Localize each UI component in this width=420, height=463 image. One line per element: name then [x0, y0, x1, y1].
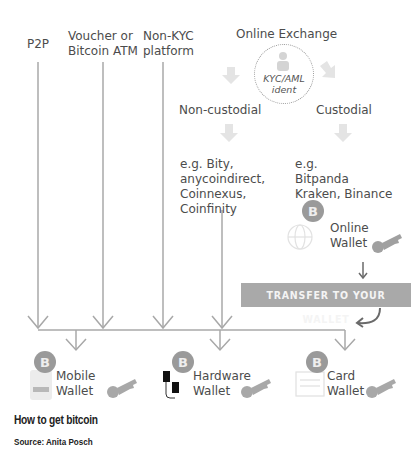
bitcoin-icon-card: B: [306, 351, 328, 373]
figure-caption-title: How to get bitcoin: [14, 413, 98, 427]
source-nonkyc-line1: Non-KYC: [143, 29, 194, 44]
transfer-to-wallet-banner: TRANSFER TO YOUR WALLET: [241, 283, 411, 307]
wallet-mobile-line1: Mobile: [56, 369, 95, 384]
block-arrow: [222, 67, 240, 84]
wallet-card-line1: Card: [327, 369, 364, 384]
example-item: e.g. Bity,: [180, 157, 265, 172]
figure-caption-source: Source: Anita Posch: [14, 436, 93, 447]
source-nonkyc-line2: platform: [143, 44, 194, 59]
example-item: Coinfinity: [180, 202, 265, 217]
wallet-card-line2: Wallet: [327, 384, 364, 399]
online-wallet-line1: Online: [330, 221, 369, 236]
example-item: Bitpanda: [295, 172, 392, 187]
online-wallet-line2: Wallet: [330, 236, 369, 251]
card-icon: [296, 372, 324, 396]
hardware-device-icon: [163, 371, 179, 398]
bitcoin-icon-online: B: [302, 200, 324, 222]
source-non-kyc: Non-KYC platform: [143, 29, 194, 59]
wallet-mobile: Mobile Wallet: [56, 369, 95, 399]
svg-text:B: B: [40, 355, 50, 370]
kyc-line2: ident: [255, 84, 313, 95]
svg-text:B: B: [308, 204, 318, 219]
custodial-examples: e.g. Bitpanda Kraken, Binance: [295, 157, 392, 202]
wallet-hardware-line1: Hardware: [193, 369, 251, 384]
bitcoin-icon-hardware: B: [172, 351, 194, 373]
key-icon-online: [372, 234, 402, 253]
example-item: Coinnexus,: [180, 187, 265, 202]
wallet-hardware: Hardware Wallet: [193, 369, 251, 399]
key-icon-card: [366, 379, 396, 398]
example-item: anycoindirect,: [180, 172, 265, 187]
source-voucher-line1: Voucher or: [68, 29, 138, 44]
source-p2p: P2P: [27, 37, 49, 52]
wallet-hardware-line2: Wallet: [193, 384, 251, 399]
key-icon-mobile: [107, 379, 137, 398]
branch-non-custodial: Non-custodial: [179, 103, 261, 118]
online-wallet-label: Online Wallet: [330, 221, 369, 251]
bitcoin-icon-mobile: B: [34, 351, 56, 373]
globe-icon: [288, 225, 312, 249]
non-custodial-examples: e.g. Bity, anycoindirect, Coinnexus, Coi…: [180, 157, 265, 217]
wallet-card: Card Wallet: [327, 369, 364, 399]
kyc-aml-badge: KYC/AML ident: [254, 44, 314, 104]
svg-text:B: B: [312, 355, 322, 370]
source-online-exchange: Online Exchange: [236, 27, 337, 42]
example-item: Kraken, Binance: [295, 187, 392, 202]
mobile-phone-icon: [30, 370, 52, 400]
wallet-mobile-line2: Wallet: [56, 384, 95, 399]
example-item: e.g.: [295, 157, 392, 172]
kyc-line1: KYC/AML: [255, 73, 313, 84]
source-voucher-line2: Bitcoin ATM: [68, 44, 138, 59]
branch-custodial: Custodial: [316, 103, 372, 118]
source-voucher-atm: Voucher or Bitcoin ATM: [68, 29, 138, 59]
svg-text:B: B: [178, 355, 188, 370]
